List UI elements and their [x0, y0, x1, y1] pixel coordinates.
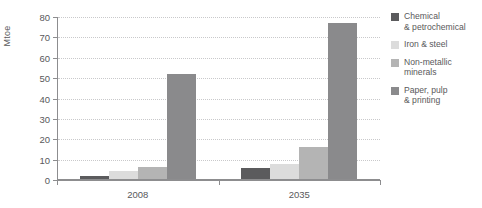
y-axis-tick — [53, 99, 57, 100]
bar-chart: Mtoe 01020304050607080 20082035 Chemical… — [0, 0, 482, 208]
y-axis-tick — [53, 58, 57, 59]
y-axis-tick — [53, 139, 57, 140]
legend-label: Non-metallic minerals — [404, 57, 452, 78]
legend-item[interactable]: Paper, pulp & printing — [391, 85, 481, 106]
x-axis-tick-label: 2008 — [127, 189, 148, 200]
y-axis-tick-label: 30 — [39, 113, 50, 124]
y-axis-title: Mtoe — [2, 14, 12, 58]
legend-swatch-icon — [391, 59, 399, 67]
y-axis-tick-label: 10 — [39, 154, 50, 165]
y-axis-tick-label: 20 — [39, 134, 50, 145]
legend-swatch-icon — [391, 87, 399, 95]
bar — [328, 23, 357, 180]
bar — [270, 164, 299, 180]
bar — [299, 147, 328, 180]
legend: Chemical & petrochemicalIron & steelNon-… — [391, 11, 481, 113]
y-axis-tick — [53, 78, 57, 79]
x-axis-line — [57, 179, 380, 180]
legend-item[interactable]: Iron & steel — [391, 39, 481, 50]
legend-item[interactable]: Chemical & petrochemical — [391, 11, 481, 32]
bar — [167, 74, 196, 180]
y-axis-tick-label: 40 — [39, 93, 50, 104]
bar — [138, 167, 167, 180]
x-axis-tick — [57, 180, 58, 185]
legend-label: Iron & steel — [404, 39, 447, 50]
y-axis-tick-label: 50 — [39, 73, 50, 84]
legend-item[interactable]: Non-metallic minerals — [391, 57, 481, 78]
x-axis-tick — [380, 180, 381, 185]
x-axis-tick-label: 2035 — [289, 189, 310, 200]
y-axis-tick-label: 60 — [39, 52, 50, 63]
y-axis-tick — [53, 17, 57, 18]
legend-label: Paper, pulp & printing — [404, 85, 447, 106]
legend-swatch-icon — [391, 41, 399, 49]
legend-label: Chemical & petrochemical — [404, 11, 466, 32]
gridline — [58, 17, 380, 18]
x-axis-tick — [219, 180, 220, 185]
y-axis-tick-label: 0 — [45, 175, 50, 186]
y-axis-tick — [53, 37, 57, 38]
plot-area: 01020304050607080 20082035 — [57, 17, 380, 180]
y-axis-tick-label: 70 — [39, 32, 50, 43]
y-axis-tick-label: 80 — [39, 12, 50, 23]
legend-swatch-icon — [391, 13, 399, 21]
y-axis-tick — [53, 160, 57, 161]
y-axis-tick — [53, 119, 57, 120]
